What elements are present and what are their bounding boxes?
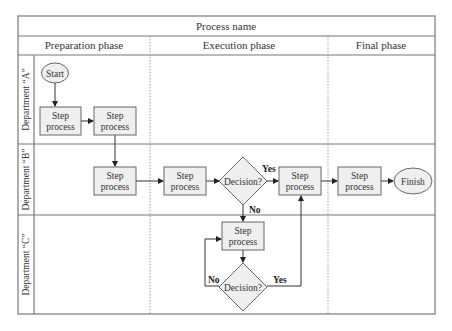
- node-c-decision: Decision?: [219, 263, 267, 311]
- svg-text:Finish: Finish: [401, 177, 425, 187]
- label-b-yes: Yes: [262, 164, 276, 174]
- node-c-step: Step process: [222, 222, 264, 250]
- svg-text:Decision?: Decision?: [224, 283, 262, 293]
- node-start: Start: [42, 63, 69, 83]
- svg-text:process: process: [101, 182, 130, 192]
- svg-text:process: process: [101, 122, 130, 132]
- svg-text:Step: Step: [351, 171, 368, 181]
- svg-text:process: process: [229, 237, 258, 247]
- svg-text:Decision?: Decision?: [224, 177, 262, 187]
- svg-text:Step: Step: [177, 171, 194, 181]
- node-b-step4: Step process: [338, 167, 381, 195]
- phase-final: Final phase: [356, 39, 407, 51]
- node-b-step3: Step process: [279, 167, 321, 195]
- process-title: Process name: [196, 20, 256, 32]
- svg-text:process: process: [171, 182, 200, 192]
- svg-text:process: process: [286, 182, 315, 192]
- swimlane-diagram: Process name Preparation phase Execution…: [0, 0, 452, 331]
- svg-text:process: process: [345, 182, 374, 192]
- phase-execution: Execution phase: [203, 39, 276, 51]
- svg-text:Step: Step: [292, 171, 309, 181]
- node-b-step2: Step process: [164, 167, 206, 195]
- diagram-frame: [18, 16, 435, 314]
- node-b-decision: Decision?: [219, 157, 267, 205]
- phase-preparation: Preparation phase: [45, 39, 124, 51]
- lane-label-b: Department “B”: [21, 149, 31, 211]
- label-c-yes: Yes: [273, 275, 287, 285]
- label-b-no: No: [249, 205, 261, 215]
- lane-label-c: Department “C”: [21, 234, 31, 296]
- lane-label-a: Department “A”: [21, 68, 31, 131]
- svg-text:Step: Step: [235, 226, 252, 236]
- svg-text:Step: Step: [107, 111, 124, 121]
- node-a-step2: Step process: [94, 107, 136, 135]
- label-c-no: No: [208, 275, 220, 285]
- svg-text:Start: Start: [46, 69, 64, 79]
- edge-c-decision-yes: [267, 196, 301, 286]
- node-a-step1: Step process: [40, 107, 81, 135]
- node-finish: Finish: [394, 168, 432, 194]
- svg-text:Step: Step: [52, 111, 69, 121]
- svg-text:Step: Step: [107, 171, 124, 181]
- node-b-step1: Step process: [94, 167, 136, 195]
- svg-text:process: process: [46, 122, 75, 132]
